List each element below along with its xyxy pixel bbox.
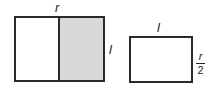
right-rectangle bbox=[129, 36, 193, 83]
shaded-half bbox=[59, 18, 103, 80]
fraction-denominator: 2 bbox=[197, 65, 203, 76]
divider-line bbox=[58, 17, 60, 81]
left-top-label: r bbox=[55, 1, 59, 14]
right-top-label: l bbox=[157, 21, 160, 34]
left-side-label: l bbox=[109, 43, 112, 56]
right-side-fraction: r 2 bbox=[196, 51, 205, 76]
fraction-numerator: r bbox=[199, 51, 203, 62]
